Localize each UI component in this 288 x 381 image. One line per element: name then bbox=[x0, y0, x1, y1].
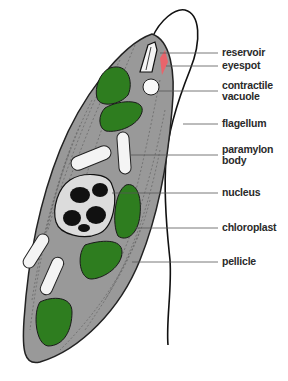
contractile-vacuole bbox=[143, 79, 159, 95]
label-nucleus: nucleus bbox=[222, 187, 260, 198]
label-eyespot: eyespot bbox=[222, 60, 260, 71]
label-flagellum: flagellum bbox=[222, 118, 266, 129]
label-pellicle: pellicle bbox=[222, 256, 256, 267]
label-paramylon-body: paramylon body bbox=[222, 144, 273, 166]
label-reservoir: reservoir bbox=[222, 47, 265, 58]
label-contractile-vacuole: contractile vacuole bbox=[222, 80, 273, 102]
label-chloroplast: chloroplast bbox=[222, 222, 276, 233]
